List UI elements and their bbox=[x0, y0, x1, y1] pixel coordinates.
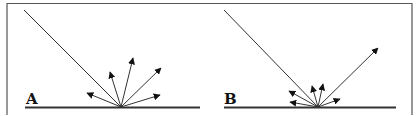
panel-label-a: A bbox=[25, 90, 38, 108]
incident-ray-b bbox=[224, 10, 318, 107]
reflected-rays-b bbox=[289, 48, 378, 107]
figure-frame bbox=[7, 4, 412, 116]
incident-ray-a bbox=[24, 10, 121, 107]
reflected-rays-a bbox=[87, 58, 161, 107]
reflection-diagram: A B bbox=[0, 0, 416, 115]
panel-label-b: B bbox=[224, 90, 237, 108]
reflected-ray-b-right-low bbox=[318, 99, 340, 107]
reflected-ray-a-vertical bbox=[121, 58, 133, 107]
reflected-ray-b-vertical bbox=[318, 84, 323, 107]
panel-b: B bbox=[224, 10, 396, 108]
reflected-ray-b-specular bbox=[318, 48, 378, 107]
reflected-ray-a-left-low bbox=[87, 93, 121, 107]
panel-a: A bbox=[24, 10, 200, 108]
